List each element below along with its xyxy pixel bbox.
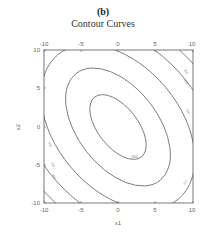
x-tick-bottom: 10 — [189, 207, 196, 213]
x-tick-top: 5 — [153, 41, 157, 47]
contour-plot: 2000 800 600 400 400 600 800 200 -10 -5 … — [0, 0, 206, 238]
y-tick: -5 — [35, 162, 41, 168]
contour-labels: 2000 800 600 400 400 600 800 200 — [47, 69, 191, 186]
x-tick-bottom: -5 — [78, 207, 84, 213]
x-tick-top: 0 — [116, 41, 120, 47]
y-tick: 10 — [33, 47, 40, 53]
svg-text:800: 800 — [183, 69, 189, 76]
svg-text:600: 600 — [183, 79, 189, 86]
x-tick-top: 10 — [189, 41, 196, 47]
x-tick-bottom: 5 — [153, 207, 157, 213]
tick-marks — [44, 50, 193, 203]
x-tick-top: -5 — [78, 41, 84, 47]
svg-text:400: 400 — [185, 109, 191, 116]
svg-text:2000: 2000 — [131, 155, 138, 159]
svg-text:800: 800 — [51, 174, 57, 181]
x-tick-bottom: 0 — [116, 207, 120, 213]
svg-text:600: 600 — [50, 162, 56, 169]
y-tick: 5 — [37, 85, 41, 91]
x-tick-bottom: -10 — [40, 207, 49, 213]
svg-text:400: 400 — [47, 142, 53, 149]
x-axis-label: x1 — [115, 220, 122, 226]
plot-frame — [44, 50, 193, 203]
y-tick: -10 — [31, 200, 40, 206]
x-tick-top: -10 — [40, 41, 49, 47]
y-axis-label: x2 — [15, 123, 21, 130]
svg-text:200: 200 — [182, 179, 188, 186]
y-tick: 0 — [37, 124, 41, 130]
